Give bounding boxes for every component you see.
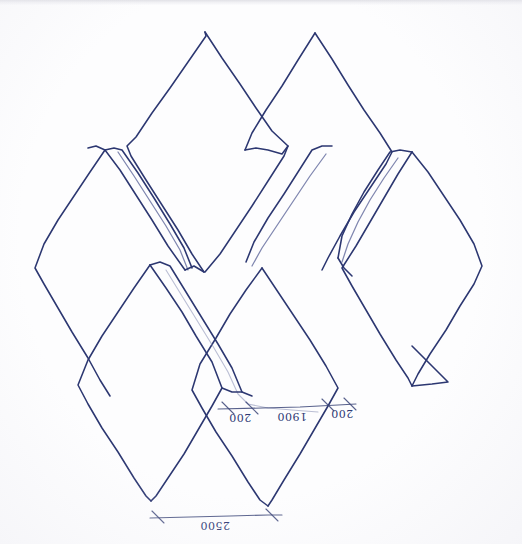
dimension-label-left: 200	[229, 411, 252, 424]
mid-right-diamond	[342, 152, 412, 386]
mid-right-diamond-right-edge	[412, 152, 482, 386]
dimension-label-center: 1900	[277, 410, 307, 423]
bottom-center-notch	[222, 388, 252, 396]
upper-left-notch	[88, 146, 105, 150]
diamond-tessellation-drawing: 200 1900 200 2500	[0, 0, 522, 544]
bottom-left-diamond	[78, 265, 151, 501]
center-flap-strip-inner	[252, 154, 326, 266]
left-flap-strip-outer	[105, 148, 192, 268]
left-flap-strip-inner	[118, 152, 188, 270]
sketch-page: 200 1900 200 2500	[0, 0, 522, 544]
dimension-label-right: 200	[331, 407, 354, 420]
bottom-center-diamond	[192, 268, 268, 506]
mid-left-diamond	[35, 150, 110, 396]
top-center-notch	[245, 146, 288, 154]
top-right-diamond-right-edge	[315, 33, 392, 270]
top-right-diamond	[245, 33, 315, 150]
corner-flap-triangle	[412, 346, 448, 386]
bottom-left-diamond-right-edge	[150, 265, 222, 501]
bottom-dim-tick-start	[152, 511, 164, 523]
bottom-dimension-line	[150, 515, 282, 518]
dimension-label-bottom: 2500	[200, 519, 230, 532]
mid-left-diamond-right-edge	[105, 150, 185, 270]
top-left-diamond	[127, 32, 206, 272]
dimension-labels: 200 1900 200 2500	[200, 407, 353, 532]
bottom-center-diamond-right-edge	[262, 268, 338, 506]
right-flap-strip-inner	[342, 158, 398, 262]
